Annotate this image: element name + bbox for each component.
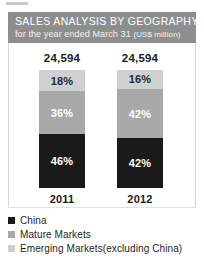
cut-off-rule — [6, 2, 28, 5]
legend-label: China — [20, 215, 47, 226]
bar-segment-emerging-markets: 18% — [39, 70, 85, 91]
bar-segment-label: 42% — [129, 108, 152, 120]
legend-item-china: China — [8, 213, 200, 227]
bar-segment-label: 18% — [51, 75, 74, 87]
bar-segment-mature-markets: 42% — [117, 89, 163, 139]
bar-segment-emerging-markets: 16% — [117, 70, 163, 89]
legend-item-emerging-markets: Emerging Markets(excluding China) — [8, 241, 200, 255]
bar-segment-mature-markets: 36% — [39, 91, 85, 134]
legend-item-mature-markets: Mature Markets — [8, 227, 200, 241]
bar-segment-label: 36% — [51, 107, 74, 119]
legend-swatch-icon — [8, 217, 15, 224]
chart-subtitle: for the year ended March 31 (US$ million… — [15, 28, 196, 41]
chart-plot-panel: 24,594 18% 36% 46% 2011 24,594 — [8, 43, 196, 208]
stacked-bar: 18% 36% 46% — [39, 70, 85, 188]
bar-segment-label: 16% — [129, 73, 152, 85]
chart-subtitle-main: for the year ended March 31 — [15, 29, 133, 39]
bar-segment-label: 42% — [129, 157, 152, 169]
bar-segment-china: 42% — [117, 138, 163, 188]
bar-group-2011: 24,594 18% 36% 46% 2011 — [31, 51, 93, 205]
chart-title: SALES ANALYSIS BY GEOGRAPHY — [15, 15, 196, 28]
bar-total-label: 24,594 — [31, 51, 93, 66]
bars-area: 24,594 18% 36% 46% 2011 24,594 — [9, 43, 195, 206]
bar-segment-china: 46% — [39, 134, 85, 188]
chart-subtitle-unit: (US$ million) — [133, 30, 180, 39]
legend-label: Emerging Markets(excluding China) — [20, 243, 182, 254]
legend-swatch-icon — [8, 231, 15, 238]
stacked-bar: 16% 42% 42% — [117, 70, 163, 188]
bar-category-label: 2012 — [109, 193, 171, 205]
bar-total-label: 24,594 — [109, 51, 171, 66]
bar-group-2012: 24,594 16% 42% 42% 2012 — [109, 51, 171, 205]
chart-header-band: SALES ANALYSIS BY GEOGRAPHY for the year… — [8, 12, 196, 43]
legend-swatch-icon — [8, 245, 15, 252]
bar-category-label: 2011 — [31, 193, 93, 205]
sales-analysis-chart-figure: SALES ANALYSIS BY GEOGRAPHY for the year… — [0, 0, 204, 262]
chart-legend: China Mature Markets Emerging Markets(ex… — [8, 213, 200, 255]
legend-label: Mature Markets — [20, 229, 91, 240]
cut-off-content-sliver — [0, 0, 204, 10]
bar-segment-label: 46% — [51, 155, 74, 167]
